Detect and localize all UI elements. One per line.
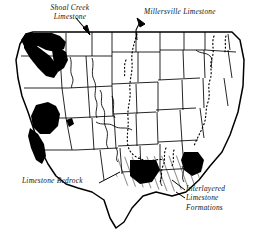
label-millersville-line-1: Millersville Limestone bbox=[144, 8, 216, 17]
label-interlayered-line-1: Interlayered bbox=[186, 184, 225, 193]
label-interlayered-line-3: Formations bbox=[186, 203, 225, 212]
label-interlayered-line-2: Limestone bbox=[186, 193, 225, 202]
label-shoal-creek-limestone: Shoal Creek Limestone bbox=[30, 4, 110, 21]
label-interlayered-limestone-formations: Interlayered Limestone Formations bbox=[186, 184, 225, 212]
label-limestone-bedrock: Limestone Bedrock bbox=[22, 177, 83, 186]
limestone-distribution-map: Shoal Creek Limestone Millersville Limes… bbox=[0, 0, 255, 240]
label-shoal-creek-line-2: Limestone bbox=[30, 13, 110, 22]
label-limestone-bedrock-line-1: Limestone Bedrock bbox=[22, 177, 83, 186]
label-millersville-limestone: Millersville Limestone bbox=[144, 8, 216, 17]
